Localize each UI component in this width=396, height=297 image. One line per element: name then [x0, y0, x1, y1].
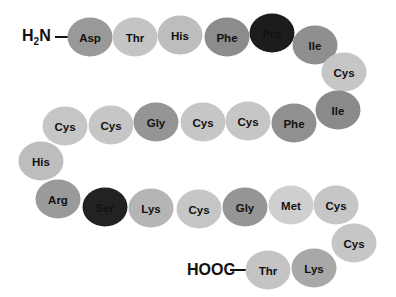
residue-label: Phe — [216, 31, 237, 43]
residue-cys: Cys — [43, 107, 88, 146]
residue-phe: Phe — [272, 104, 317, 143]
residue-gly: Gly — [223, 188, 268, 227]
n-terminus-n: N — [39, 27, 51, 44]
residue-label: Cys — [100, 119, 121, 131]
residue-label: Ser — [96, 201, 115, 213]
residue-label: Thr — [259, 264, 278, 276]
residue-label: Pro — [262, 27, 281, 39]
residue-cys: Cys — [332, 224, 377, 263]
residue-label: Thr — [126, 31, 145, 43]
residue-gly: Gly — [134, 103, 179, 142]
residue-label: Cys — [192, 116, 213, 128]
residue-label: Phe — [283, 117, 304, 129]
residue-label: Arg — [48, 193, 68, 205]
residue-cys: Cys — [322, 53, 367, 92]
residue-label: Asp — [79, 31, 101, 43]
residue-thr: Thr — [246, 251, 291, 290]
residue-label: Gly — [147, 116, 166, 128]
residue-cys: Cys — [181, 103, 226, 142]
residue-label: Lys — [304, 262, 323, 274]
residue-asp: Asp — [68, 18, 113, 57]
residue-label: Cys — [237, 115, 258, 127]
n-terminus-bond — [55, 36, 68, 38]
residue-lys: Lys — [292, 249, 337, 288]
residue-phe: Phe — [205, 18, 250, 57]
residue-thr: Thr — [113, 18, 158, 57]
residue-cys: Cys — [89, 106, 134, 145]
residue-ser: Ser — [83, 188, 128, 227]
residue-ile: Ile — [316, 91, 361, 130]
residue-label: Lys — [141, 202, 160, 214]
c-terminus-bond — [230, 269, 246, 271]
residue-cys: Cys — [177, 190, 222, 229]
residue-his: His — [19, 142, 64, 181]
residue-label: Ile — [309, 39, 322, 51]
residue-label: His — [32, 155, 50, 167]
residue-label: Cys — [333, 66, 354, 78]
residue-his: His — [158, 16, 203, 55]
n-terminus-h: H — [22, 27, 34, 44]
residue-pro: Pro — [250, 14, 295, 53]
residue-label: Gly — [236, 201, 255, 213]
residue-label: His — [171, 29, 189, 41]
c-terminus-text: HOOC — [187, 261, 235, 278]
residue-met: Met — [269, 186, 314, 225]
residue-lys: Lys — [129, 189, 174, 228]
residue-label: Cys — [188, 203, 209, 215]
residue-arg: Arg — [36, 180, 81, 219]
residue-label: Cys — [343, 237, 364, 249]
n-terminus-label: H2N — [22, 27, 51, 47]
residue-cys: Cys — [226, 102, 271, 141]
residue-label: Cys — [54, 120, 75, 132]
residue-label: Cys — [325, 199, 346, 211]
c-terminus-label: HOOC — [187, 261, 235, 279]
residue-label: Met — [281, 199, 301, 211]
residue-label: Ile — [332, 104, 345, 116]
residue-cys: Cys — [314, 186, 359, 225]
